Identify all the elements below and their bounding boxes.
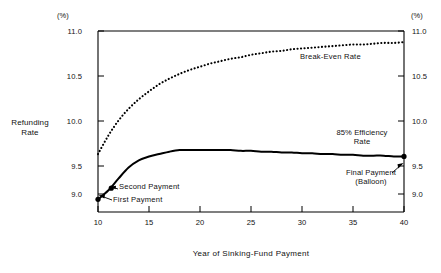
- x-tick-label-10: 10: [88, 218, 108, 228]
- y-tick-label-left-11-0: 11.0: [58, 27, 82, 37]
- y-axis-title: RefundingRate: [4, 118, 56, 138]
- series-label-efficiency-line1: 85% Efficiency: [336, 128, 387, 137]
- y-axis-ticks-left: [98, 31, 104, 194]
- y-tick-label-right-10-5: 10.5: [412, 72, 427, 82]
- y-tick-label-left-10-5: 10.5: [58, 72, 82, 82]
- y-axis-title-line1: Refunding: [11, 118, 48, 127]
- x-axis-ticks: [98, 206, 404, 212]
- y-tick-label-right-9-5: 9.5: [412, 162, 423, 172]
- series-label-efficiency-line2: Rate: [354, 137, 370, 146]
- x-tick-label-20: 20: [190, 218, 210, 228]
- series-label-break-even-rate: Break-Even Rate: [300, 52, 361, 62]
- marker-final-payment: [401, 154, 406, 159]
- x-tick-label-40: 40: [394, 218, 414, 228]
- series-label-85-efficiency-rate: 85% EfficiencyRate: [325, 128, 399, 146]
- x-tick-label-15: 15: [139, 218, 159, 228]
- annotation-final-payment-line1: Final Payment: [346, 168, 396, 177]
- x-tick-label-35: 35: [343, 218, 363, 228]
- y-tick-label-right-11-0: 11.0: [412, 27, 427, 37]
- chart-figure: (%) (%) 11.0 10.5 10.0 9.5 9.0 11.0 10.5…: [0, 0, 441, 273]
- annotation-first-payment: First Payment: [113, 195, 162, 205]
- y-tick-label-left-9-0: 9.0: [58, 190, 82, 200]
- x-tick-label-25: 25: [241, 218, 261, 228]
- y-tick-label-right-10-0: 10.0: [412, 117, 427, 127]
- left-axis-unit: (%): [57, 11, 69, 21]
- x-tick-label-30: 30: [292, 218, 312, 228]
- annotation-final-payment: Final Payment(Balloon): [337, 168, 405, 186]
- y-tick-label-left-9-5: 9.5: [58, 162, 82, 172]
- y-axis-title-line2: Rate: [21, 128, 38, 137]
- y-tick-label-left-10-0: 10.0: [58, 117, 82, 127]
- y-tick-label-right-9-0: 9.0: [412, 190, 423, 200]
- right-axis-unit: (%): [411, 11, 423, 21]
- annotation-second-payment: Second Payment: [119, 182, 180, 192]
- marker-first-payment: [95, 197, 100, 202]
- x-axis-title: Year of Sinking-Fund Payment: [171, 249, 331, 259]
- annotation-final-payment-line2: (Balloon): [355, 177, 386, 186]
